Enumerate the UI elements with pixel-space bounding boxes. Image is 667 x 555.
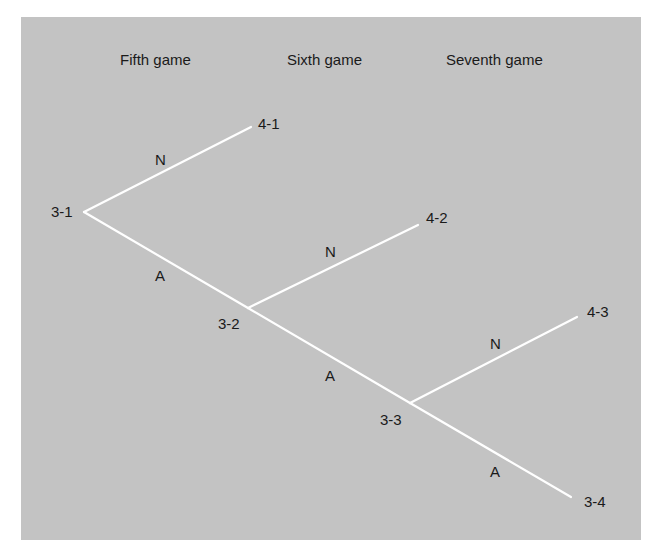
tree-lines (0, 0, 667, 555)
edge-3-2-to-3-3 (248, 308, 410, 403)
header-seventh-game: Seventh game (446, 52, 543, 67)
edge-3-3-to-4-3 (410, 317, 577, 403)
header-fifth-game: Fifth game (120, 52, 191, 67)
edge-3-2-to-4-2 (248, 225, 418, 308)
edge-label-A-3: A (490, 464, 500, 479)
header-sixth-game: Sixth game (287, 52, 362, 67)
edge-label-N-2: N (325, 244, 336, 259)
node-3-1: 3-1 (51, 204, 73, 219)
edge-3-3-to-3-4 (410, 403, 571, 497)
edge-label-N-3: N (490, 336, 501, 351)
node-4-1: 4-1 (258, 116, 280, 131)
edge-3-1-to-3-2 (84, 212, 248, 308)
node-4-2: 4-2 (426, 210, 448, 225)
node-3-2: 3-2 (218, 316, 240, 331)
node-4-3: 4-3 (587, 304, 609, 319)
edge-3-1-to-4-1 (84, 127, 251, 212)
edge-label-A-1: A (155, 268, 165, 283)
node-3-4: 3-4 (584, 494, 606, 509)
edge-label-A-2: A (325, 368, 335, 383)
edge-label-N-1: N (155, 152, 166, 167)
node-3-3: 3-3 (380, 412, 402, 427)
